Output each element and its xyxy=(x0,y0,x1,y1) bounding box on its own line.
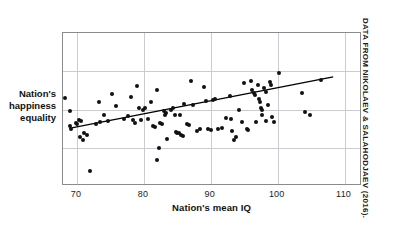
data-point xyxy=(254,120,258,124)
data-points-layer xyxy=(63,33,360,184)
data-point xyxy=(164,111,168,115)
data-point xyxy=(68,124,72,128)
data-point xyxy=(149,100,153,104)
data-point xyxy=(268,80,272,84)
data-point xyxy=(264,90,268,94)
data-point xyxy=(264,119,268,123)
data-point xyxy=(245,127,249,131)
data-point xyxy=(158,121,162,125)
data-point xyxy=(198,127,202,131)
data-point xyxy=(195,129,199,133)
data-point xyxy=(216,127,220,131)
data-point xyxy=(266,103,270,107)
data-point xyxy=(163,113,167,117)
data-point xyxy=(253,93,257,97)
data-point xyxy=(308,113,312,117)
data-point xyxy=(240,120,244,124)
data-point xyxy=(206,127,210,131)
data-point xyxy=(249,79,253,83)
data-point xyxy=(135,84,139,88)
y-axis-label-line-1: Nation's xyxy=(2,88,56,100)
trendline-layer xyxy=(63,33,360,184)
data-point xyxy=(242,81,246,85)
data-point xyxy=(151,124,155,128)
data-point xyxy=(259,106,263,110)
data-point xyxy=(110,92,114,96)
data-point xyxy=(191,103,195,107)
data-point xyxy=(262,86,266,90)
data-point xyxy=(75,122,79,126)
data-point xyxy=(81,138,85,142)
data-point xyxy=(139,118,143,122)
data-point xyxy=(204,99,208,103)
data-point xyxy=(165,137,169,141)
x-axis-tick-label: 70 xyxy=(71,189,81,199)
plot-area xyxy=(62,32,361,185)
data-point xyxy=(133,121,137,125)
data-point xyxy=(175,131,179,135)
data-point xyxy=(173,113,177,117)
data-point xyxy=(141,108,145,112)
data-point xyxy=(256,83,260,87)
data-point xyxy=(319,78,323,82)
data-point xyxy=(155,88,159,92)
data-point xyxy=(209,128,213,132)
data-point xyxy=(174,130,178,134)
data-point xyxy=(189,79,193,83)
data-point xyxy=(258,100,262,104)
data-point xyxy=(230,129,234,133)
data-point xyxy=(260,108,264,112)
data-point xyxy=(74,121,78,125)
data-point xyxy=(277,71,281,75)
gridline-vertical xyxy=(144,33,145,184)
data-point xyxy=(246,128,250,132)
scatter-plot-figure: Nation's happiness equality 708090100110… xyxy=(0,0,401,225)
gridline-vertical xyxy=(345,33,346,184)
regression-line xyxy=(72,77,334,128)
data-point xyxy=(252,91,256,95)
data-point xyxy=(97,100,101,104)
data-point xyxy=(146,117,150,121)
data-point xyxy=(211,98,215,102)
data-point xyxy=(270,115,274,119)
data-point xyxy=(177,131,181,135)
data-point xyxy=(181,134,185,138)
data-point xyxy=(229,117,233,121)
data-point xyxy=(157,146,161,150)
data-point xyxy=(224,116,228,120)
data-point xyxy=(250,88,254,92)
data-point xyxy=(213,97,217,101)
data-point xyxy=(106,119,110,123)
data-point xyxy=(220,126,224,130)
gridline-horizontal xyxy=(63,71,360,72)
data-point xyxy=(131,118,135,122)
gridlines xyxy=(63,33,360,184)
data-point xyxy=(169,108,173,112)
data-point xyxy=(300,91,304,95)
x-axis-tick-label: 100 xyxy=(269,189,285,199)
data-point xyxy=(126,114,130,118)
data-point xyxy=(182,102,186,106)
x-axis-tick-label: 110 xyxy=(336,189,351,199)
data-point xyxy=(137,106,141,110)
data-point xyxy=(155,158,159,162)
gridline-horizontal xyxy=(63,148,360,149)
data-point xyxy=(234,135,238,139)
trendline-svg xyxy=(63,33,362,186)
data-point xyxy=(102,113,106,117)
data-point xyxy=(122,117,126,121)
data-point xyxy=(260,113,264,117)
data-point xyxy=(68,109,72,113)
data-point xyxy=(153,125,157,129)
gridline-vertical xyxy=(278,33,279,184)
gridline-vertical xyxy=(211,33,212,184)
data-point xyxy=(178,113,182,117)
data-point xyxy=(179,133,183,137)
gridline-vertical xyxy=(77,33,78,184)
y-axis-label-line-3: equality xyxy=(2,112,56,124)
data-point xyxy=(160,122,164,126)
data-point xyxy=(79,119,83,123)
data-point xyxy=(202,85,206,89)
data-point xyxy=(232,138,236,142)
data-point xyxy=(78,135,82,139)
